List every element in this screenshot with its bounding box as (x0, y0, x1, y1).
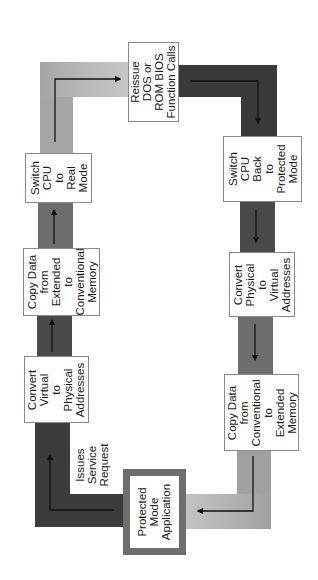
node-label: Switch CPU Back to Protected Mode (226, 144, 298, 193)
arrow-reissue-to-switch-protected (190, 81, 258, 123)
node-label: Convert Physical to Virtual Addresses (232, 257, 292, 311)
node-reissue-dos-bios-calls: Reissue DOS or ROM BIOS Function Calls (128, 42, 179, 122)
node-convert-virtual-to-physical: Convert Virtual to Physical Addresses (24, 356, 89, 423)
node-label: Protected Mode Application (137, 484, 173, 540)
node-label: Reissue DOS or ROM BIOS Function Calls (130, 46, 178, 119)
node-switch-cpu-back-to-protected-mode: Switch CPU Back to Protected Mode (223, 136, 302, 202)
arrow-copy-to-app (198, 456, 253, 511)
node-label: Convert Virtual to Physical Addresses (27, 362, 87, 416)
node-protected-mode-application: Protected Mode Application (123, 469, 186, 555)
node-label: Switch CPU to Real Mode (29, 161, 89, 195)
node-label: Copy Data from Extended to Conventional … (25, 248, 97, 315)
node-copy-extended-to-conventional: Copy Data from Extended to Conventional … (23, 248, 100, 316)
node-switch-cpu-to-real-mode: Switch CPU to Real Mode (25, 153, 92, 203)
node-copy-conventional-to-extended: Copy Data from Conventional to Extended … (224, 374, 299, 451)
node-convert-physical-to-virtual: Convert Physical to Virtual Addresses (229, 252, 295, 317)
edge-label-issues-service-request: Issues Service Request (72, 440, 112, 490)
arrow-switch-real-to-reissue (55, 79, 120, 142)
node-label: Copy Data from Conventional to Extended … (225, 379, 297, 446)
